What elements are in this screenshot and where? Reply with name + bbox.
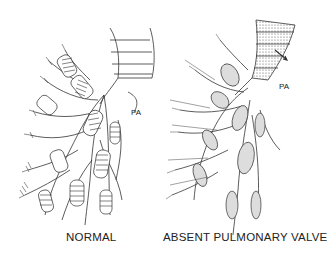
normal-lung-illustration: PA: [0, 0, 162, 263]
pa-label-absent-valve: PA: [279, 82, 289, 91]
absent-valve-lung-illustration: PA: [160, 0, 323, 263]
caption-normal: NORMAL: [66, 231, 116, 243]
bronchial-tree-absent-valve-drawing: [160, 0, 323, 263]
pa-label-normal: PA: [131, 108, 141, 117]
caption-absent-pulmonary-valve: ABSENT PULMONARY VALVE: [163, 231, 327, 243]
bronchial-tree-normal-drawing: [0, 0, 162, 263]
